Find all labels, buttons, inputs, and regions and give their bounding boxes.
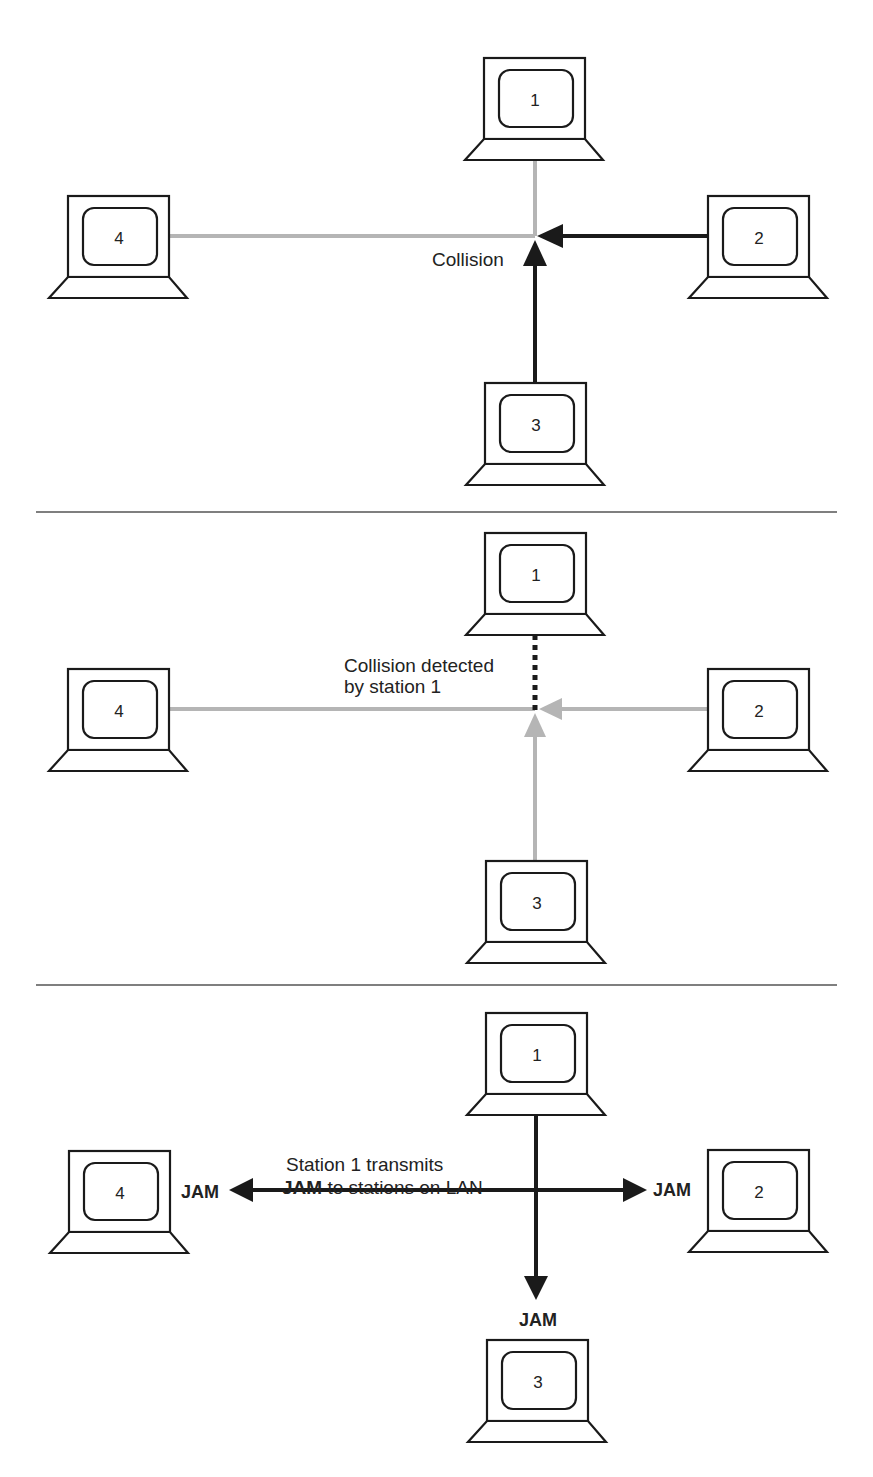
station-label: 2 <box>754 702 763 721</box>
arrow-left-icon <box>537 224 563 248</box>
collision-label: Collision <box>432 249 504 270</box>
panel-jam: Station 1 transmits JAM to stations on L… <box>50 1013 827 1442</box>
collision-diagram: Collision 1 2 3 4 Collision detected by … <box>0 0 873 1477</box>
station-3: 3 <box>468 1340 606 1442</box>
station-1: 1 <box>465 58 603 160</box>
station-2: 2 <box>689 196 827 298</box>
station-4: 4 <box>49 669 187 771</box>
station-label: 4 <box>115 1184 124 1203</box>
jam-label-left: JAM <box>181 1182 219 1202</box>
station-label: 1 <box>531 566 540 585</box>
jam-caption-rest: to stations on LAN <box>322 1177 483 1198</box>
jam-caption-bold: JAM <box>282 1177 322 1198</box>
station-label: 3 <box>532 894 541 913</box>
detection-label-line2: by station 1 <box>344 676 441 697</box>
arrow-up-icon <box>523 240 547 266</box>
station-label: 4 <box>114 702 123 721</box>
station-1: 1 <box>466 533 604 635</box>
station-label: 1 <box>530 91 539 110</box>
arrow-right-icon <box>623 1178 647 1202</box>
arrow-left-icon <box>229 1178 253 1202</box>
station-label: 3 <box>531 416 540 435</box>
jam-caption-line1: Station 1 transmits <box>286 1154 443 1175</box>
station-label: 2 <box>754 1183 763 1202</box>
station-label: 4 <box>114 229 123 248</box>
station-2: 2 <box>689 1150 827 1252</box>
detection-label-line1: Collision detected <box>344 655 494 676</box>
station-label: 3 <box>533 1373 542 1392</box>
arrow-left-icon <box>539 698 562 720</box>
jam-caption-line2: JAM to stations on LAN <box>282 1177 483 1198</box>
jam-label-right: JAM <box>653 1180 691 1200</box>
jam-label-bottom: JAM <box>519 1310 557 1330</box>
arrow-up-icon <box>524 713 546 737</box>
station-1: 1 <box>467 1013 605 1115</box>
station-3: 3 <box>467 861 605 963</box>
station-4: 4 <box>49 196 187 298</box>
station-2: 2 <box>689 669 827 771</box>
station-4: 4 <box>50 1151 188 1253</box>
panel-collision: Collision 1 2 3 4 <box>49 58 827 485</box>
panel-detection: Collision detected by station 1 1 2 3 4 <box>49 533 827 963</box>
arrow-down-icon <box>524 1276 548 1300</box>
station-label: 1 <box>532 1046 541 1065</box>
station-label: 2 <box>754 229 763 248</box>
station-3: 3 <box>466 383 604 485</box>
